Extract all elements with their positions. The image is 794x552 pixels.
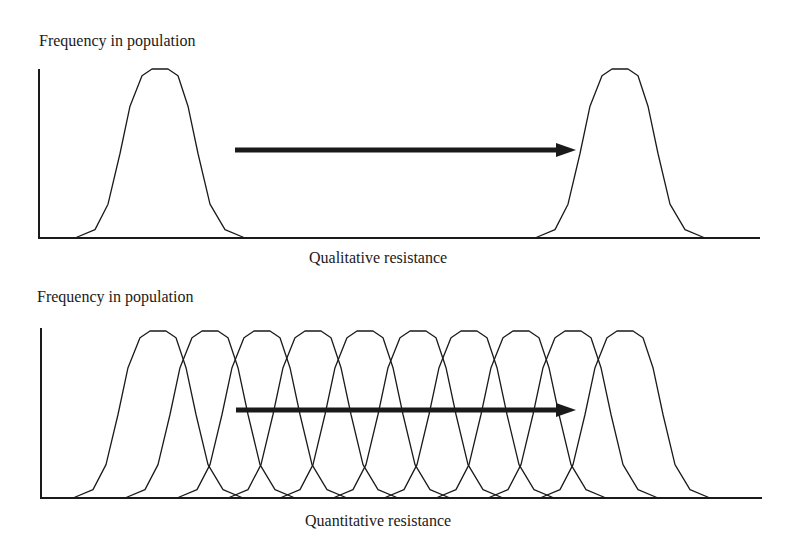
distribution-curve [228,331,398,498]
distribution-curve [280,331,450,498]
quantitative-panel [41,328,762,499]
distribution-curve [75,69,245,238]
resistance-diagram [0,0,794,552]
distribution-curve [540,331,710,498]
distribution-curve [384,331,554,498]
bottom-arrow-icon [236,403,576,417]
top-arrow-icon [235,143,576,157]
distribution-curve [177,331,347,498]
bottom-curves [73,331,710,498]
distribution-curve [436,331,606,498]
top-curves [75,69,705,238]
distribution-curve [488,331,658,498]
distribution-curve [73,331,243,498]
distribution-curve [333,331,503,498]
qualitative-panel [39,69,760,239]
distribution-curve [125,331,295,498]
